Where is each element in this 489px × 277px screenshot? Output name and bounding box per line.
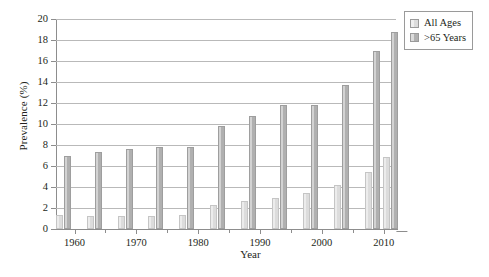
bar	[187, 147, 194, 229]
legend-swatch-over-65	[410, 33, 419, 42]
legend-label-over-65: >65 Years	[424, 33, 466, 44]
bar	[148, 216, 155, 229]
bar-group	[241, 19, 256, 229]
bar	[126, 149, 133, 229]
bar-group	[179, 19, 194, 229]
bar-group	[272, 19, 287, 229]
y-tick-label: 20	[38, 14, 49, 25]
bar	[365, 172, 372, 229]
legend-swatch-all-ages	[410, 19, 419, 28]
x-tick	[198, 229, 199, 234]
x-tick	[384, 229, 385, 234]
bar	[342, 85, 349, 229]
y-tick-label: 14	[38, 77, 49, 88]
y-tick	[51, 229, 56, 230]
x-axis-title: Year	[0, 248, 489, 260]
y-tick-label: 12	[38, 98, 49, 109]
bar	[218, 126, 225, 229]
y-tick-label: 2	[43, 203, 48, 214]
bar	[303, 193, 310, 229]
y-tick-label: 18	[38, 35, 49, 46]
bar	[373, 51, 380, 230]
bar	[280, 105, 287, 229]
x-tick	[322, 229, 323, 234]
bar	[56, 215, 63, 229]
bar	[64, 156, 71, 230]
x-tick-minor	[353, 229, 354, 233]
x-tick-label: 1970	[126, 238, 147, 249]
bar-group	[383, 19, 398, 229]
x-tick-minor	[167, 229, 168, 233]
bar-group	[210, 19, 225, 229]
x-tick-label: 1960	[64, 238, 85, 249]
bar	[241, 201, 248, 229]
x-tick-minor	[291, 229, 292, 233]
bar	[311, 105, 318, 229]
x-tick-label: 1980	[188, 238, 209, 249]
y-axis-title: Prevalence (%)	[17, 41, 29, 191]
bar-series-container	[57, 19, 397, 229]
x-tick-label: 2010	[373, 238, 394, 249]
chart-figure: Prevalence (%) 02468101214161820 1960197…	[0, 0, 489, 277]
bar	[249, 116, 256, 229]
x-axis-tail-flourish	[396, 220, 416, 232]
bar-group	[303, 19, 318, 229]
x-axis-title-text: Year	[228, 248, 260, 260]
plot-area: 02468101214161820 1960197019801990200020…	[56, 19, 396, 229]
bar	[210, 205, 217, 229]
x-tick	[260, 229, 261, 234]
x-tick-label: 2000	[311, 238, 332, 249]
legend-label-all-ages: All Ages	[424, 18, 461, 29]
bar-group	[87, 19, 102, 229]
y-tick-label: 16	[38, 56, 49, 67]
legend-item-all-ages: All Ages	[410, 18, 466, 29]
y-tick-label: 0	[43, 224, 48, 235]
x-tick	[136, 229, 137, 234]
bar	[391, 32, 398, 229]
bar	[272, 198, 279, 230]
bar-group	[334, 19, 349, 229]
y-tick-label: 10	[38, 119, 49, 130]
y-tick-label: 4	[43, 182, 48, 193]
chart-legend: All Ages >65 Years	[404, 11, 473, 50]
bar-group	[56, 19, 71, 229]
bar-group	[148, 19, 163, 229]
bar	[87, 216, 94, 229]
x-tick-minor	[229, 229, 230, 233]
x-tick	[75, 229, 76, 234]
legend-item-over-65: >65 Years	[410, 33, 466, 44]
x-axis-line	[56, 229, 398, 230]
bar-group	[118, 19, 133, 229]
bar	[334, 185, 341, 229]
bar	[156, 147, 163, 229]
y-tick-label: 6	[43, 161, 48, 172]
bar	[383, 157, 390, 229]
bar	[179, 215, 186, 229]
bar	[118, 216, 125, 229]
x-tick-label: 1990	[250, 238, 271, 249]
bar	[95, 152, 102, 229]
y-tick-label: 8	[43, 140, 48, 151]
x-tick-minor	[105, 229, 106, 233]
bar-group	[365, 19, 380, 229]
